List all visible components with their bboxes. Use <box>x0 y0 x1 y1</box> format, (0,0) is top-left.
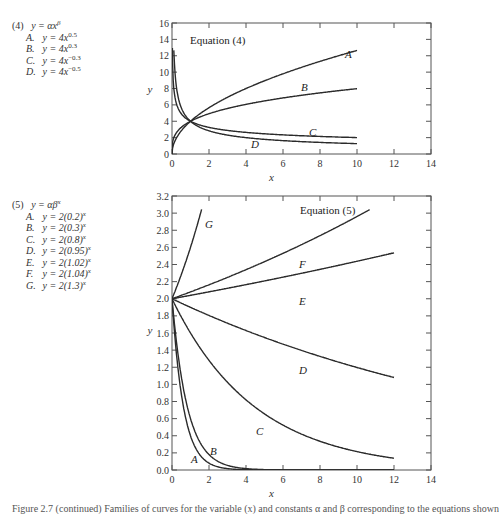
y-tick-label: 16 <box>159 18 169 29</box>
x-tick-label: 6 <box>281 158 286 169</box>
y-tick-label: 1.4 <box>157 345 170 356</box>
chart-equation-4: 024681012140246810121416xyEquation (4)AB… <box>147 18 436 184</box>
x-tick-label: 8 <box>318 474 323 485</box>
chart-title: Equation (5) <box>300 204 356 217</box>
y-tick-label: 6 <box>164 99 169 110</box>
plot-frame <box>172 196 431 470</box>
y-tick-label: 2.6 <box>157 242 170 253</box>
series-label-d: D <box>250 138 259 150</box>
series-label-g: G <box>205 218 213 230</box>
x-tick-label: 12 <box>389 474 399 485</box>
x-axis-label: x <box>268 171 274 183</box>
y-tick-label: 1.2 <box>157 362 170 373</box>
series-line-d <box>172 299 394 378</box>
x-tick-label: 12 <box>389 158 399 169</box>
y-tick-label: 14 <box>159 34 169 45</box>
x-axis-label: x <box>268 487 274 499</box>
series-label-f: F <box>298 258 306 270</box>
series-line-a <box>172 299 394 470</box>
series-line-b <box>172 89 357 154</box>
series-label-c: C <box>256 425 264 437</box>
y-tick-label: 0.4 <box>157 430 170 441</box>
series-line-c <box>172 299 394 458</box>
series-line-e <box>172 253 394 299</box>
y-tick-label: 2.2 <box>157 276 170 287</box>
x-tick-label: 4 <box>244 474 249 485</box>
y-tick-label: 8 <box>164 83 169 94</box>
y-tick-label: 2.0 <box>157 293 170 304</box>
series-label-b: B <box>210 445 217 457</box>
figure-caption: Figure 2.7 (continued) Families of curve… <box>12 503 499 514</box>
y-tick-label: 3.0 <box>157 208 170 219</box>
series-line-d <box>174 50 357 143</box>
series-line-f <box>172 210 370 299</box>
x-tick-label: 0 <box>170 474 175 485</box>
x-tick-label: 14 <box>426 158 436 169</box>
x-tick-label: 10 <box>352 158 362 169</box>
y-tick-label: 1.0 <box>157 379 170 390</box>
x-tick-label: 14 <box>426 474 436 485</box>
y-axis-label: y <box>147 324 153 336</box>
series-line-a <box>172 50 357 154</box>
y-tick-label: 4 <box>164 116 169 127</box>
series-label-c: C <box>309 126 317 138</box>
y-tick-label: 0.0 <box>157 465 170 476</box>
chart-equation-5: 024681012140.00.20.40.60.81.01.21.41.61.… <box>147 191 436 500</box>
y-axis-label: y <box>147 83 153 95</box>
y-tick-label: 2 <box>164 132 169 143</box>
series-label-e: E <box>298 295 306 307</box>
x-tick-label: 0 <box>170 158 175 169</box>
y-tick-label: 3.2 <box>157 191 170 202</box>
series-line-g <box>172 209 202 298</box>
x-tick-label: 4 <box>244 158 249 169</box>
y-tick-label: 1.6 <box>157 328 170 339</box>
series-line-c <box>172 48 357 138</box>
series-line-b <box>172 299 394 470</box>
x-tick-label: 2 <box>207 158 212 169</box>
x-tick-label: 2 <box>207 474 212 485</box>
series-label-b: B <box>301 81 308 93</box>
x-tick-label: 8 <box>318 158 323 169</box>
series-label-a: A <box>344 48 352 60</box>
series-label-a: A <box>190 453 198 465</box>
y-tick-label: 0.6 <box>157 413 170 424</box>
y-tick-label: 10 <box>159 67 169 78</box>
y-tick-label: 0 <box>164 149 169 160</box>
series-label-d: D <box>298 364 307 376</box>
y-tick-label: 0.2 <box>157 447 170 458</box>
y-tick-label: 2.4 <box>157 259 170 270</box>
y-tick-label: 12 <box>159 50 169 61</box>
x-tick-label: 10 <box>352 474 362 485</box>
x-tick-label: 6 <box>281 474 286 485</box>
y-tick-label: 0.8 <box>157 396 170 407</box>
chart-title: Equation (4) <box>190 34 246 47</box>
y-tick-label: 1.8 <box>157 310 170 321</box>
y-tick-label: 2.8 <box>157 225 170 236</box>
